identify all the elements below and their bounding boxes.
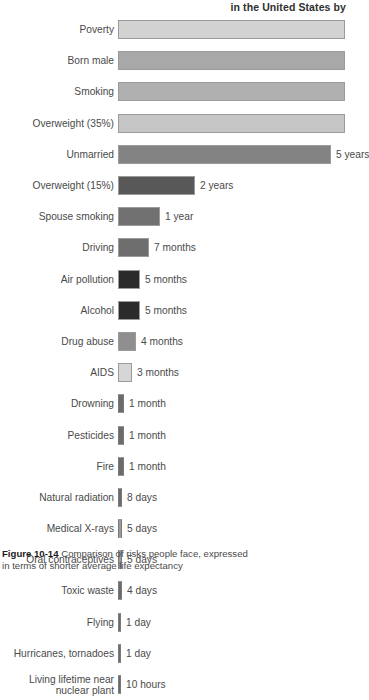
bar [118, 270, 140, 289]
bar-track: 5 years [118, 139, 369, 170]
bar-row: Flying1 day [0, 607, 348, 638]
bar-track: 10 hours [118, 669, 348, 700]
bar-value-label: 10 hours [126, 679, 166, 690]
bar-category-label: Pesticides [0, 430, 118, 441]
bar [118, 207, 160, 226]
bar-value-label: 5 days [127, 523, 157, 534]
bar-track: 3 months [118, 357, 348, 388]
bar-row: Drowning1 month [0, 388, 348, 419]
bar-category-label: Unmarried [0, 149, 118, 160]
bar-track: 4 days [118, 575, 348, 606]
bar-category-label: Driving [0, 242, 118, 253]
bar-category-label: Hurricanes, tornadoes [0, 648, 118, 659]
bar-value-label: 1 day [126, 617, 151, 628]
bar-row: Unmarried5 years [0, 139, 348, 170]
bar-category-label: Medical X-rays [0, 523, 118, 534]
bar-track: 1 month [118, 451, 348, 482]
bar-row: Medical X-rays5 days [0, 513, 348, 544]
bar-category-label: Poverty [0, 24, 118, 35]
bar-row: Spouse smoking1 year [0, 201, 348, 232]
bar [118, 519, 122, 538]
bar-row: Toxic waste4 days [0, 575, 348, 606]
bar-track: 1 day [118, 638, 348, 669]
bar-row: Air pollution5 months [0, 264, 348, 295]
bar-value-label: 5 months [145, 305, 187, 316]
bar-row: Hurricanes, tornadoes1 day [0, 638, 348, 669]
bar [118, 394, 124, 413]
bar [118, 238, 149, 257]
bar-value-label: 5 years [336, 149, 369, 160]
bar-row: Overweight (15%)2 years [0, 170, 348, 201]
bar-category-label: Overweight (15%) [0, 180, 118, 191]
bar [118, 176, 195, 195]
bar-value-label: 1 day [126, 648, 151, 659]
bar-category-label: Air pollution [0, 274, 118, 285]
bar-value-label: 3 months [137, 367, 179, 378]
bar [118, 457, 124, 476]
bar-value-label: 4 days [127, 585, 157, 596]
bar-track: 8 days [118, 482, 348, 513]
bar-row: Born male [0, 45, 348, 76]
bar-row: AIDS3 months [0, 357, 348, 388]
bar [118, 145, 331, 164]
bar [118, 613, 121, 632]
bar-value-label: 1 month [129, 461, 166, 472]
bar-row: Smoking [0, 76, 348, 107]
bar-row: Drug abuse4 months [0, 326, 348, 357]
bar-category-label: Living lifetime near nuclear plant [0, 674, 118, 696]
bar [118, 51, 345, 70]
bar-category-label: Toxic waste [0, 585, 118, 596]
bar-category-label: Fire [0, 461, 118, 472]
bar-category-label: Smoking [0, 86, 118, 97]
bar [118, 488, 122, 507]
bar [118, 332, 136, 351]
bar-row: Poverty [0, 14, 348, 45]
bar-row: Driving7 months [0, 232, 348, 263]
bar-row: Overweight (35%) [0, 108, 348, 139]
bar-track [118, 76, 350, 107]
bar-rows: PovertyBorn maleSmokingOverweight (35%)U… [0, 14, 348, 700]
bar-track [118, 14, 350, 45]
bar-category-label: Natural radiation [0, 492, 118, 503]
bar [118, 20, 345, 39]
figure-number: Figure 10-14 [2, 548, 59, 559]
bar-value-label: 1 month [129, 430, 166, 441]
bar [118, 114, 345, 133]
bar-value-label: 1 year [165, 211, 193, 222]
bar-category-label: Overweight (35%) [0, 118, 118, 129]
bar-category-label: AIDS [0, 367, 118, 378]
bar-row: Alcohol5 months [0, 295, 348, 326]
bar [118, 426, 124, 445]
bar [118, 363, 132, 382]
caption-line-1: Comparison of risks people face, express… [59, 548, 248, 559]
bar-value-label: 8 days [127, 492, 157, 503]
bar [118, 644, 121, 663]
figure-caption: Figure 10-14 Comparison of risks people … [2, 548, 346, 573]
bar-track: 1 year [118, 201, 348, 232]
bar [118, 301, 140, 320]
bar-value-label: 1 month [129, 398, 166, 409]
bar-category-label: Born male [0, 55, 118, 66]
bar [118, 675, 121, 694]
bar-row: Living lifetime near nuclear plant10 hou… [0, 669, 348, 700]
bar-category-label: Drowning [0, 398, 118, 409]
bar-value-label: 7 months [154, 242, 196, 253]
bar-value-label: 4 months [141, 336, 183, 347]
bar-track: 1 day [118, 607, 348, 638]
bar-category-label: Flying [0, 617, 118, 628]
bar-track: 4 months [118, 326, 348, 357]
bar-track [118, 108, 350, 139]
bar-category-label: Drug abuse [0, 336, 118, 347]
bar-track: 7 months [118, 232, 348, 263]
caption-line-2: in terms of shorter average life expecta… [2, 560, 183, 571]
bar-row: Natural radiation8 days [0, 482, 348, 513]
bar-track: 5 months [118, 264, 348, 295]
bar-track: 1 month [118, 419, 348, 450]
bar-value-label: 2 years [200, 180, 233, 191]
chart-title: in the United States by [0, 1, 346, 13]
bar-row: Pesticides1 month [0, 419, 348, 450]
bar [118, 581, 122, 600]
bar-value-label: 5 months [145, 274, 187, 285]
bar-track: 5 days [118, 513, 348, 544]
